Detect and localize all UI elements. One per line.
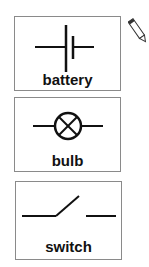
battery-card[interactable]: battery: [14, 16, 121, 91]
switch-label: switch: [16, 239, 121, 255]
battery-label: battery: [15, 72, 120, 88]
pencil-icon[interactable]: [128, 16, 148, 46]
bulb-card[interactable]: bulb: [14, 97, 121, 172]
switch-card[interactable]: switch: [15, 181, 122, 260]
bulb-label: bulb: [15, 153, 120, 169]
